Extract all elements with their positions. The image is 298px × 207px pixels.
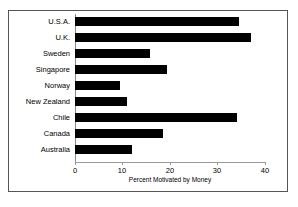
- y-tick-label: U.K.: [0, 30, 70, 46]
- bar-sweden: [75, 49, 150, 58]
- bar-new-zealand: [75, 97, 127, 106]
- x-tick-mark: [170, 162, 171, 165]
- y-tick-label: Australia: [0, 142, 70, 158]
- bar-australia: [75, 145, 132, 154]
- y-tick-label: New Zealand: [0, 94, 70, 110]
- x-tick-label: 10: [110, 166, 134, 175]
- y-tick-label: Sweden: [0, 46, 70, 62]
- x-tick-mark: [217, 162, 218, 165]
- bar-canada: [75, 129, 163, 138]
- y-tick-label: Norway: [0, 78, 70, 94]
- bar-norway: [75, 81, 120, 90]
- bar-singapore: [75, 65, 167, 74]
- bar-uk: [75, 33, 251, 42]
- x-tick-label: 0: [63, 166, 87, 175]
- bar-chile: [75, 113, 237, 122]
- x-tick-mark: [265, 162, 266, 165]
- x-tick-mark: [75, 162, 76, 165]
- chart-figure: U.S.A. U.K. Sweden Singapore Norway New …: [0, 0, 298, 207]
- x-tick-label: 20: [158, 166, 182, 175]
- x-tick-label: 30: [205, 166, 229, 175]
- x-tick-label: 40: [253, 166, 277, 175]
- y-tick-label: Canada: [0, 126, 70, 142]
- x-tick-mark: [122, 162, 123, 165]
- x-axis-title: Percent Motivated by Money: [75, 176, 265, 183]
- plot-area: [75, 14, 265, 162]
- bar-usa: [75, 17, 239, 26]
- y-tick-label: Chile: [0, 110, 70, 126]
- y-tick-label: U.S.A.: [0, 14, 70, 30]
- y-tick-label: Singapore: [0, 62, 70, 78]
